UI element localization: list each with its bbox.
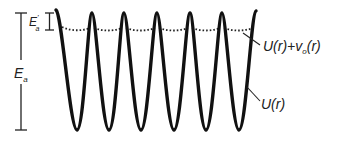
ea-label: Ea <box>14 65 28 84</box>
label-u-plus-vo: U(r)+vo(r) <box>263 38 321 56</box>
label-u: U(r) <box>261 96 285 112</box>
pointer-solid <box>247 87 260 101</box>
ea-prime-bracket <box>45 13 54 30</box>
solid-curve-u <box>56 10 256 130</box>
ea-prime-label: E'a <box>29 13 40 32</box>
potential-diagram: Ea E'a U(r)+vo(r) U(r) <box>0 0 343 141</box>
